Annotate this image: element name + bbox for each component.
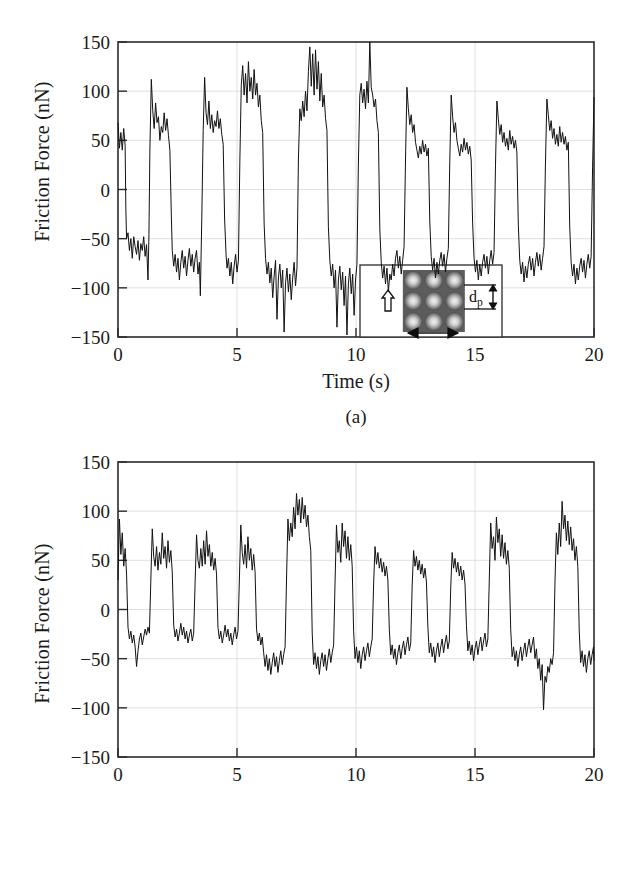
- panel-a-x-axis-title: Time (s): [118, 370, 594, 393]
- y-tick-label: −150: [71, 747, 110, 768]
- y-tick-label: 150: [82, 32, 111, 53]
- panel-a: Friction Force (nN) −150−100−50050100150…: [0, 0, 635, 440]
- y-tick-label: 0: [101, 180, 111, 201]
- y-tick-label: 50: [91, 550, 110, 571]
- y-tick-label: −100: [71, 698, 110, 719]
- y-tick-label: 50: [91, 130, 110, 151]
- x-tick-label: 20: [585, 764, 604, 785]
- x-tick-label: 0: [113, 764, 123, 785]
- x-tick-label: 5: [232, 344, 242, 365]
- y-tick-label: 150: [82, 452, 111, 473]
- friction-force-figure: Friction Force (nN) −150−100−50050100150…: [0, 0, 635, 883]
- y-tick-label: −100: [71, 278, 110, 299]
- y-tick-label: −50: [80, 649, 110, 670]
- y-tick-label: 100: [82, 81, 111, 102]
- y-tick-label: 100: [82, 501, 111, 522]
- x-tick-label: 20: [585, 344, 604, 365]
- x-tick-label: 15: [466, 764, 485, 785]
- y-tick-label: −50: [80, 229, 110, 250]
- panel-a-caption: (a): [118, 406, 594, 428]
- x-tick-label: 10: [347, 344, 366, 365]
- panel-b-plot: −150−100−5005010015005101520dp: [0, 440, 635, 883]
- y-tick-label: −150: [71, 327, 110, 348]
- x-tick-label: 10: [347, 764, 366, 785]
- x-tick-label: 0: [113, 344, 123, 365]
- x-tick-label: 5: [232, 764, 242, 785]
- x-tick-label: 15: [466, 344, 485, 365]
- panel-b: Friction Force (nN) −150−100−50050100150…: [0, 440, 635, 883]
- y-tick-label: 0: [101, 600, 111, 621]
